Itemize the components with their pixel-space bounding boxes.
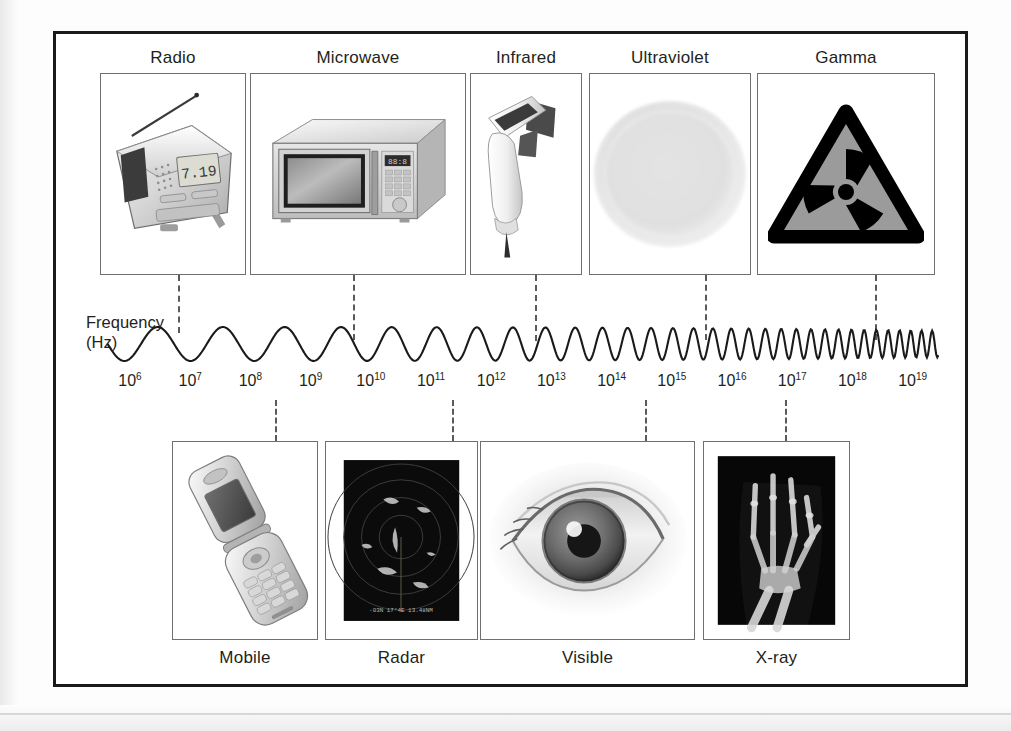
tick-1e14: 1014	[597, 372, 626, 390]
tick-1e6: 106	[118, 372, 141, 390]
svg-text:·03N 17°4E 13.48NM: ·03N 17°4E 13.48NM	[369, 607, 433, 614]
connector-mobile	[275, 400, 277, 441]
bottom-label-visible: Visible	[480, 648, 695, 668]
bottom-label-mobile: Mobile	[172, 648, 318, 668]
tick-1e16: 1016	[718, 372, 747, 390]
tick-1e18: 1018	[838, 372, 867, 390]
connector-xray	[785, 400, 787, 441]
figure-canvas: Radio Microwave Infrared Ultraviolet Gam…	[0, 0, 1011, 731]
mobile-phone-illustration	[173, 442, 317, 639]
photo-radar: ·03N 17°4E 13.48NM	[325, 441, 478, 640]
tick-1e13: 1013	[537, 372, 566, 390]
tick-1e7: 107	[179, 372, 202, 390]
tick-1e11: 1011	[417, 372, 445, 390]
tick-1e17: 1017	[778, 372, 807, 390]
tick-1e15: 1015	[657, 372, 686, 390]
eye-illustration	[481, 442, 694, 639]
bottom-label-xray: X-ray	[703, 648, 850, 668]
tick-1e12: 1012	[477, 372, 506, 390]
radar-scope-illustration: ·03N 17°4E 13.48NM	[326, 442, 477, 639]
photo-visible	[480, 441, 695, 640]
photo-mobile	[172, 441, 318, 640]
tick-1e10: 1010	[356, 372, 385, 390]
xray-hand-illustration	[704, 442, 849, 639]
tick-1e9: 109	[299, 372, 322, 390]
bottom-label-radar: Radar	[325, 648, 478, 668]
tick-1e8: 108	[239, 372, 262, 390]
tick-1e19: 1019	[898, 372, 927, 390]
connector-visible	[645, 400, 647, 441]
photo-xray	[703, 441, 850, 640]
connector-radar	[452, 400, 454, 441]
